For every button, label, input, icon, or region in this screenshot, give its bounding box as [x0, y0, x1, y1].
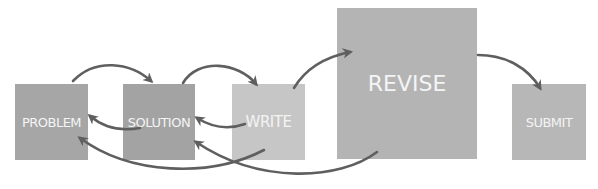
node-label-write: WRITE — [246, 113, 292, 131]
node-revise: REVISE — [337, 8, 477, 159]
node-problem: PROBLEM — [15, 84, 88, 160]
node-label-problem: PROBLEM — [22, 115, 81, 130]
node-label-solution: SOLUTION — [128, 115, 190, 130]
node-label-submit: SUBMIT — [526, 115, 573, 130]
arrow-problem-to-solution — [73, 65, 151, 81]
node-submit: SUBMIT — [512, 84, 586, 160]
node-solution: SOLUTION — [123, 84, 195, 160]
node-write: WRITE — [232, 84, 305, 160]
node-label-revise: REVISE — [368, 71, 447, 96]
arrow-solution-to-write — [183, 66, 256, 84]
